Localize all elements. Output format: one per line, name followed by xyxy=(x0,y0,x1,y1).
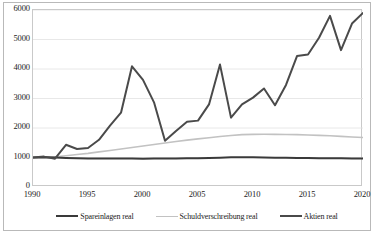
legend-label: Schuldverschreibung real xyxy=(180,212,258,221)
x-tick-label: 2000 xyxy=(134,189,151,199)
y-tick-label: 1000 xyxy=(2,152,30,161)
plot-svg xyxy=(33,10,363,187)
legend-label: Spareinlagen real xyxy=(80,212,133,221)
x-tick-label: 2010 xyxy=(244,189,261,199)
legend-swatch-icon xyxy=(280,215,302,217)
x-tick-label: 1995 xyxy=(79,189,96,199)
x-tick-label: 2015 xyxy=(299,189,316,199)
legend-swatch-icon xyxy=(156,216,178,217)
plot-area xyxy=(32,9,362,186)
series-line-spareinlagen-real xyxy=(33,157,363,158)
y-tick-label: 2000 xyxy=(2,122,30,131)
legend-label: Aktien real xyxy=(304,212,338,221)
y-tick-label: 4000 xyxy=(2,63,30,72)
series-line-aktien-real xyxy=(33,13,363,159)
y-tick-label: 3000 xyxy=(2,93,30,102)
legend-swatch-icon xyxy=(56,215,78,217)
series-line-schuldverschreibung-real xyxy=(33,134,363,157)
x-tick-label: 2005 xyxy=(189,189,206,199)
x-axis: 1990199520002005201020152020 xyxy=(32,189,362,201)
legend-item[interactable]: Aktien real xyxy=(280,212,338,221)
line-chart-figure: 6000500040003000200010000 19901995200020… xyxy=(0,0,374,234)
x-tick-label: 1990 xyxy=(24,189,41,199)
y-tick-label: 6000 xyxy=(2,4,30,13)
legend-item[interactable]: Spareinlagen real xyxy=(56,212,133,221)
y-tick-label: 5000 xyxy=(2,34,30,43)
chart-legend: Spareinlagen realSchuldverschreibung rea… xyxy=(32,208,362,224)
x-tick-label: 2020 xyxy=(354,189,371,199)
legend-item[interactable]: Schuldverschreibung real xyxy=(156,212,258,221)
